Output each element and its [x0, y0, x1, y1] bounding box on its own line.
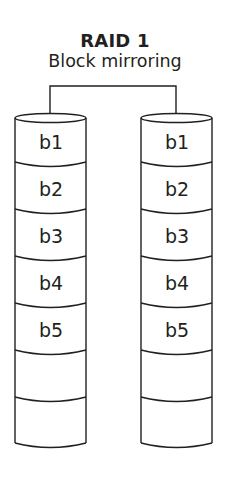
block-label: b3 — [15, 225, 87, 247]
block-label: b4 — [141, 272, 213, 294]
block-label: b3 — [141, 225, 213, 247]
block-label: b1 — [141, 131, 213, 153]
block-label: b4 — [15, 272, 87, 294]
block-label: b5 — [15, 319, 87, 341]
block-label: b2 — [141, 178, 213, 200]
mirror-connector — [50, 86, 176, 114]
block-label: b2 — [15, 178, 87, 200]
block-label: b5 — [141, 319, 213, 341]
block-label: b1 — [15, 131, 87, 153]
